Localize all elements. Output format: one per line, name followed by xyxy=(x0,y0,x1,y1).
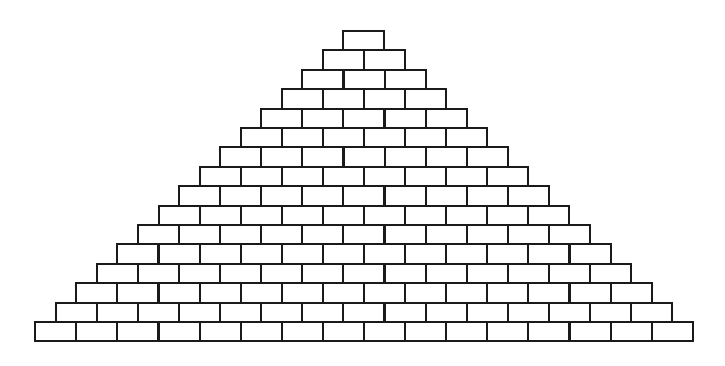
brick xyxy=(342,302,385,323)
brick xyxy=(240,205,283,226)
brick xyxy=(240,166,283,187)
brick xyxy=(486,321,529,342)
brick xyxy=(569,321,612,342)
brick xyxy=(199,321,242,342)
brick xyxy=(425,263,468,284)
brick xyxy=(445,127,488,148)
brick xyxy=(343,69,386,90)
brick xyxy=(610,282,653,303)
brick xyxy=(281,243,324,264)
brick xyxy=(425,302,468,323)
brick xyxy=(116,243,159,264)
brick xyxy=(301,224,344,245)
brick xyxy=(384,146,427,167)
brick xyxy=(363,321,406,342)
brick xyxy=(281,205,324,226)
brick xyxy=(260,224,303,245)
brick xyxy=(363,49,406,70)
brick xyxy=(486,243,529,264)
brick xyxy=(178,185,221,206)
brick xyxy=(445,205,488,226)
brick xyxy=(527,282,570,303)
brick xyxy=(301,263,344,284)
brick xyxy=(219,263,262,284)
brick xyxy=(445,166,488,187)
brick xyxy=(445,282,488,303)
brick xyxy=(178,263,221,284)
brick xyxy=(281,127,324,148)
brick xyxy=(240,243,283,264)
brick xyxy=(363,243,406,264)
brick xyxy=(96,302,139,323)
brick xyxy=(527,243,570,264)
brick xyxy=(260,185,303,206)
brick xyxy=(548,224,591,245)
brick xyxy=(466,302,509,323)
brick xyxy=(281,88,324,109)
brick xyxy=(137,263,180,284)
brick xyxy=(548,302,591,323)
brick xyxy=(404,205,447,226)
brick xyxy=(301,302,344,323)
brick xyxy=(384,185,427,206)
brick xyxy=(507,263,550,284)
brick xyxy=(404,88,447,109)
brick xyxy=(158,243,201,264)
brick xyxy=(404,127,447,148)
brick xyxy=(363,166,406,187)
brick xyxy=(486,166,529,187)
brick xyxy=(445,243,488,264)
brick xyxy=(34,321,77,342)
brick xyxy=(363,282,406,303)
brick xyxy=(425,108,468,129)
brick xyxy=(96,263,139,284)
brick xyxy=(404,321,447,342)
brick xyxy=(569,243,612,264)
brick xyxy=(651,321,694,342)
brick xyxy=(548,263,591,284)
brick xyxy=(384,69,427,90)
brick xyxy=(301,69,344,90)
brick xyxy=(199,205,242,226)
brick xyxy=(630,302,673,323)
brick xyxy=(158,205,201,226)
brick xyxy=(342,263,385,284)
brick xyxy=(466,263,509,284)
brick xyxy=(260,302,303,323)
brick xyxy=(342,30,385,51)
brick xyxy=(219,224,262,245)
brick xyxy=(322,49,365,70)
brick xyxy=(301,185,344,206)
brick xyxy=(322,321,365,342)
brick xyxy=(301,108,344,129)
brick xyxy=(342,224,385,245)
brick xyxy=(363,88,406,109)
brick xyxy=(569,282,612,303)
brick xyxy=(322,205,365,226)
brick xyxy=(425,185,468,206)
brick xyxy=(425,224,468,245)
brick xyxy=(137,224,180,245)
brick xyxy=(158,321,201,342)
brick xyxy=(384,108,427,129)
brick xyxy=(404,282,447,303)
brick xyxy=(486,282,529,303)
brick xyxy=(363,205,406,226)
brick xyxy=(384,263,427,284)
brick xyxy=(199,166,242,187)
brick xyxy=(322,243,365,264)
brick xyxy=(281,166,324,187)
brick xyxy=(425,146,468,167)
brick xyxy=(589,302,632,323)
brick xyxy=(342,185,385,206)
brick xyxy=(219,302,262,323)
brick xyxy=(507,224,550,245)
brick xyxy=(260,263,303,284)
brick xyxy=(75,282,118,303)
brick xyxy=(322,282,365,303)
brick xyxy=(466,224,509,245)
brick xyxy=(589,263,632,284)
brick xyxy=(363,127,406,148)
brick xyxy=(55,302,98,323)
brick xyxy=(178,224,221,245)
